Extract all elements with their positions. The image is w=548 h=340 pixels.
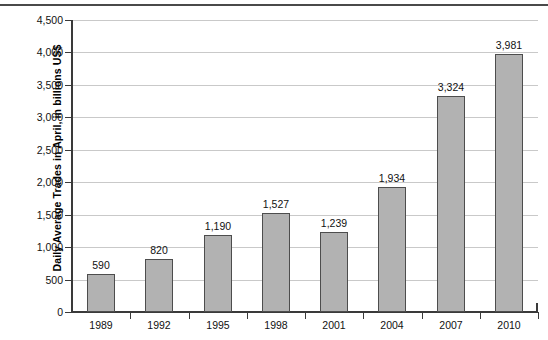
y-tick-mark bbox=[65, 312, 72, 313]
bar bbox=[437, 96, 465, 312]
y-tick-label: 4,000 bbox=[5, 47, 63, 57]
bar bbox=[145, 259, 173, 312]
y-tick-mark bbox=[65, 150, 72, 151]
y-tick-mark bbox=[65, 182, 72, 183]
x-tick-mark bbox=[422, 312, 423, 319]
gridline bbox=[72, 215, 538, 216]
gridline bbox=[72, 117, 538, 118]
x-tick-label: 1989 bbox=[71, 319, 131, 331]
x-tick-label: 1992 bbox=[129, 319, 189, 331]
bar-value-label: 820 bbox=[129, 244, 189, 256]
x-tick-label: 2001 bbox=[304, 319, 364, 331]
x-tick-label: 1995 bbox=[188, 319, 248, 331]
gridline bbox=[72, 182, 538, 183]
y-tick-mark bbox=[65, 247, 72, 248]
gridline bbox=[72, 150, 538, 151]
y-tick-label: 1,000 bbox=[5, 242, 63, 252]
y-tick-label: 500 bbox=[5, 275, 63, 285]
bar-chart: Daily Average Trades in April, in billio… bbox=[0, 0, 548, 340]
y-tick-mark bbox=[65, 215, 72, 216]
x-tick-label: 2010 bbox=[479, 319, 539, 331]
y-tick-mark bbox=[65, 52, 72, 53]
bar bbox=[320, 232, 348, 312]
x-tick-mark bbox=[363, 312, 364, 319]
x-tick-mark bbox=[189, 312, 190, 319]
y-tick-label: 2,500 bbox=[5, 145, 63, 155]
y-tick-label: 4,500 bbox=[5, 15, 63, 25]
x-tick-mark bbox=[538, 312, 539, 319]
x-tick-label: 2004 bbox=[362, 319, 422, 331]
x-tick-label: 1998 bbox=[246, 319, 306, 331]
gridline bbox=[72, 52, 538, 53]
bar bbox=[87, 274, 115, 312]
plot-area bbox=[72, 20, 538, 312]
top-border-rule bbox=[0, 4, 548, 6]
bar bbox=[495, 54, 523, 312]
bar-value-label: 1,239 bbox=[304, 217, 364, 229]
y-tick-mark bbox=[65, 280, 72, 281]
x-tick-mark bbox=[305, 312, 306, 319]
bar-value-label: 3,324 bbox=[421, 81, 481, 93]
y-tick-mark bbox=[65, 85, 72, 86]
bar-value-label: 1,934 bbox=[362, 172, 422, 184]
x-tick-label: 2007 bbox=[421, 319, 481, 331]
y-tick-label: 3,500 bbox=[5, 80, 63, 90]
bar bbox=[378, 187, 406, 312]
y-tick-label: 3,000 bbox=[5, 112, 63, 122]
bar-value-label: 590 bbox=[71, 259, 131, 271]
y-tick-mark bbox=[65, 20, 72, 21]
y-tick-mark bbox=[65, 117, 72, 118]
bar-value-label: 3,981 bbox=[479, 39, 539, 51]
x-tick-mark bbox=[130, 312, 131, 319]
x-tick-mark bbox=[480, 312, 481, 319]
y-tick-label: 0 bbox=[5, 307, 63, 317]
bar-value-label: 1,527 bbox=[246, 198, 306, 210]
gridline bbox=[72, 280, 538, 281]
x-tick-mark bbox=[247, 312, 248, 319]
bar-value-label: 1,190 bbox=[188, 220, 248, 232]
y-tick-label: 2,000 bbox=[5, 177, 63, 187]
bar bbox=[262, 213, 290, 312]
gridline bbox=[72, 20, 538, 21]
y-tick-label: 1,500 bbox=[5, 210, 63, 220]
bar bbox=[204, 235, 232, 312]
